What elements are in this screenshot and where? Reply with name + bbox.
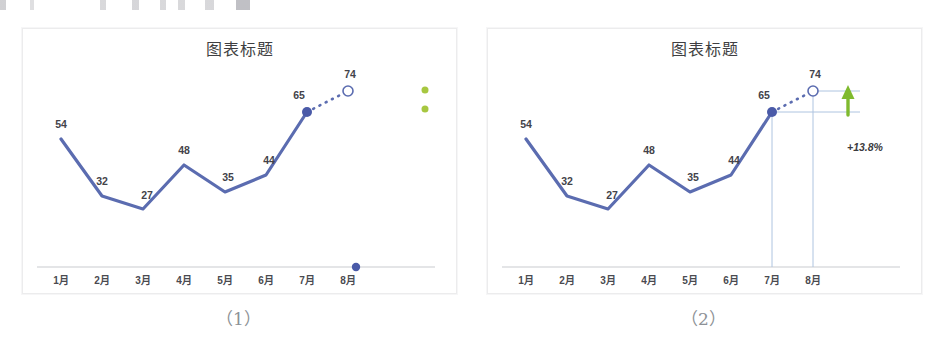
legend-dot-lower [422,106,429,113]
x-axis-label: 2月 [559,272,575,287]
value-label: 32 [561,175,573,187]
line-chart-1 [23,29,456,293]
value-label: 35 [222,171,234,183]
x-axis-label: 2月 [94,272,110,287]
marker-projected-8yue [808,86,818,96]
growth-percent-label: +13.8% [847,141,883,153]
x-axis-label: 8月 [340,272,356,287]
axis-marker-dot [352,263,360,271]
x-axis-label: 7月 [299,272,315,287]
value-label: 54 [55,118,67,130]
x-axis-label: 4月 [176,272,192,287]
value-label: 27 [606,189,618,201]
projection-connector [772,91,813,112]
value-label: 65 [758,89,770,101]
scan-artifact-strip [0,0,300,10]
x-axis-label: 1月 [518,272,534,287]
value-label: 35 [687,171,699,183]
value-label-projected: 74 [809,68,821,80]
x-axis-label: 5月 [682,272,698,287]
legend-dot-upper [422,87,429,94]
x-axis-label: 4月 [641,272,657,287]
x-axis-label: 1月 [53,272,69,287]
growth-arrow-icon [842,85,855,115]
projection-connector [307,91,348,112]
panel-caption-1: （1） [22,305,455,330]
marker-7yue [767,107,777,117]
value-label: 27 [141,189,153,201]
chart-panel-1: 图表标题 54 32 27 48 35 44 65 74 1月 2月 3月 4月… [22,28,457,294]
x-axis-label: 3月 [135,272,151,287]
x-axis-label: 6月 [258,272,274,287]
line-chart-2 [488,29,921,293]
value-label: 44 [263,154,275,166]
marker-projected-8yue [343,86,353,96]
x-axis-label: 7月 [764,272,780,287]
chart-panel-2: 图表标题 54 32 27 48 35 44 65 74 +13.8% 1月 2… [487,28,922,294]
value-label-projected: 74 [344,68,356,80]
x-axis-label: 5月 [217,272,233,287]
x-axis-label: 3月 [600,272,616,287]
marker-7yue [302,107,312,117]
value-label: 48 [643,144,655,156]
x-axis-label: 6月 [723,272,739,287]
value-label: 54 [520,118,532,130]
value-label: 44 [728,154,740,166]
value-label: 65 [293,89,305,101]
x-axis-label: 8月 [805,272,821,287]
value-label: 48 [178,144,190,156]
value-label: 32 [96,175,108,187]
panel-caption-2: （2） [487,305,920,330]
